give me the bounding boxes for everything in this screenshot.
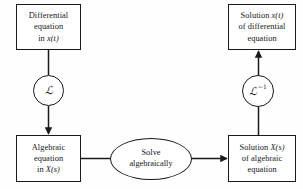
- node-solution-algebraic-line2: of algebraic: [242, 153, 282, 164]
- node-solution-algebraic: Solution X(s) of algebraic equation: [228, 135, 296, 182]
- node-algebraic-equation-line3: in X(s): [37, 164, 60, 175]
- node-solve-algebraically: Solve algebraically: [110, 138, 192, 180]
- node-solve-algebraically-line2: algebraically: [129, 159, 172, 170]
- node-algebraic-equation-line3-variable: X(s): [46, 165, 60, 174]
- node-algebraic-equation: Algebraic equation in X(s): [16, 135, 81, 182]
- node-solution-algebraic-line1-variable: X(s): [270, 143, 284, 152]
- node-algebraic-equation-line1: Algebraic: [32, 142, 65, 153]
- node-solution-algebraic-line3: equation: [247, 164, 276, 175]
- laplace-transform-icon: ℒ: [45, 85, 53, 96]
- node-differential-equation-line1: Differential: [29, 10, 69, 21]
- node-solution-differential: Solution x(t) of differential equation: [228, 4, 296, 50]
- node-solve-algebraically-line1: Solve: [141, 148, 160, 159]
- node-solution-differential-line3: equation: [247, 33, 276, 44]
- node-differential-equation: Differential equation in x(t): [16, 4, 81, 50]
- laplace-flowchart-diagram: Differential equation in x(t) Solution x…: [0, 0, 303, 189]
- node-differential-equation-line3: in x(t): [38, 33, 59, 44]
- node-solution-algebraic-line1-prefix: Solution: [239, 143, 270, 152]
- node-solution-differential-line1-variable: x(t): [272, 11, 284, 20]
- inverse-laplace-transform-icon: ℒ−1: [249, 85, 266, 97]
- node-differential-equation-line3-variable: x(t): [47, 34, 59, 43]
- node-differential-equation-line3-prefix: in: [38, 34, 47, 43]
- node-solution-algebraic-line1: Solution X(s): [239, 142, 284, 153]
- node-differential-equation-line2: equation: [34, 21, 63, 32]
- inverse-laplace-operator-symbol: ℒ: [249, 84, 257, 97]
- laplace-operator-symbol: ℒ: [45, 84, 53, 97]
- node-algebraic-equation-line3-prefix: in: [37, 165, 46, 174]
- node-solution-differential-line1-prefix: Solution: [241, 11, 272, 20]
- inverse-laplace-operator-exponent: −1: [258, 83, 267, 90]
- node-algebraic-equation-line2: equation: [34, 153, 63, 164]
- node-solution-differential-line1: Solution x(t): [241, 10, 284, 21]
- node-inverse-laplace-operator: ℒ−1: [242, 75, 274, 107]
- node-laplace-operator: ℒ: [33, 75, 64, 106]
- node-solution-differential-line2: of differential: [239, 21, 286, 32]
